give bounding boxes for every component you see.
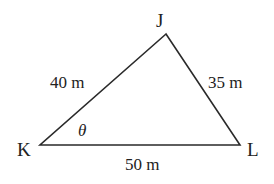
side-label-jl: 35 m: [208, 73, 242, 92]
vertex-label-k: K: [17, 139, 31, 160]
triangle-diagram: J K L 40 m 35 m 50 m θ: [0, 0, 274, 184]
vertex-label-l: L: [247, 139, 259, 160]
angle-label-theta: θ: [78, 121, 86, 140]
side-label-kj: 40 m: [50, 73, 84, 92]
side-label-kl: 50 m: [125, 155, 159, 174]
vertex-label-j: J: [156, 10, 163, 31]
